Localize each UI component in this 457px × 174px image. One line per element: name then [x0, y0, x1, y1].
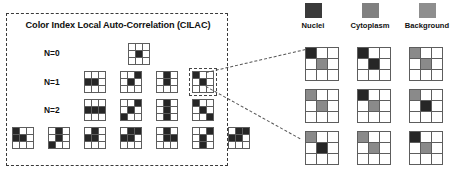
- grid-cell: [157, 79, 163, 85]
- grid-cell: [143, 58, 149, 64]
- grid-cell: [121, 86, 127, 92]
- grid-cell: [306, 143, 316, 153]
- grid-cell: [20, 135, 26, 141]
- grid-cell: [432, 132, 442, 142]
- grid-cell: [306, 48, 316, 58]
- grid-cell: [432, 154, 442, 164]
- grid-cell: [157, 72, 163, 78]
- grid-cell: [85, 72, 91, 78]
- mask-pattern-r1-c1: [120, 71, 142, 93]
- grid-cell: [121, 128, 127, 134]
- grid-cell: [236, 142, 242, 148]
- grid-cell: [128, 86, 134, 92]
- grid-cell: [410, 112, 420, 122]
- mask-pattern-r1-c0: [84, 71, 106, 93]
- grid-cell: [121, 72, 127, 78]
- grid-cell: [380, 59, 390, 69]
- grid-cell: [92, 135, 98, 141]
- grid-cell: [13, 142, 19, 148]
- grid-cell: [135, 114, 141, 120]
- grid-cell: [229, 128, 235, 134]
- grid-cell: [85, 107, 91, 113]
- grid-cell: [328, 143, 338, 153]
- grid-cell: [369, 70, 379, 80]
- grid-cell: [164, 79, 170, 85]
- grid-cell: [369, 48, 379, 58]
- grid-cell: [128, 79, 134, 85]
- grid-cell: [243, 142, 249, 148]
- grid-cell: [207, 114, 213, 120]
- grid-cell: [317, 90, 327, 100]
- grid-cell: [358, 70, 368, 80]
- mask-pattern-r2-c3: [192, 99, 214, 121]
- grid-cell: [380, 48, 390, 58]
- grid-cell: [207, 135, 213, 141]
- grid-cell: [306, 154, 316, 164]
- grid-cell: [207, 107, 213, 113]
- grid-cell: [121, 107, 127, 113]
- grid-cell: [410, 132, 420, 142]
- grid-cell: [85, 79, 91, 85]
- grid-cell: [200, 128, 206, 134]
- grid-cell: [128, 135, 134, 141]
- grid-cell: [358, 112, 368, 122]
- mask-pattern-r3-c3: [120, 127, 142, 149]
- grid-cell: [229, 135, 235, 141]
- grid-cell: [171, 142, 177, 148]
- grid-cell: [432, 101, 442, 111]
- nuclei-swatch: [305, 3, 322, 18]
- grid-cell: [164, 72, 170, 78]
- grid-cell: [328, 48, 338, 58]
- grid-cell: [171, 135, 177, 141]
- grid-cell: [328, 59, 338, 69]
- grid-cell: [49, 128, 55, 134]
- grid-cell: [369, 59, 379, 69]
- grid-cell: [200, 114, 206, 120]
- grid-cell: [410, 143, 420, 153]
- grid-cell: [85, 100, 91, 106]
- grid-cell: [135, 107, 141, 113]
- grid-cell: [92, 142, 98, 148]
- grid-cell: [27, 142, 33, 148]
- grid-cell: [129, 51, 135, 57]
- grid-cell: [121, 135, 127, 141]
- grid-cell: [27, 135, 33, 141]
- grid-cell: [317, 143, 327, 153]
- grid-cell: [143, 51, 149, 57]
- grid-cell: [121, 142, 127, 148]
- grid-cell: [171, 79, 177, 85]
- grid-cell: [99, 79, 105, 85]
- grid-cell: [164, 100, 170, 106]
- grid-cell: [193, 100, 199, 106]
- grid-cell: [121, 114, 127, 120]
- grid-cell: [380, 90, 390, 100]
- grid-cell: [421, 101, 431, 111]
- grid-cell: [328, 132, 338, 142]
- grid-cell: [85, 142, 91, 148]
- grid-cell: [128, 114, 134, 120]
- grid-cell: [358, 154, 368, 164]
- mask-pattern-r0-c0: [128, 43, 150, 65]
- variant-grid-r1-c2: [409, 89, 443, 123]
- grid-cell: [135, 79, 141, 85]
- grid-cell: [369, 90, 379, 100]
- grid-cell: [85, 86, 91, 92]
- grid-cell: [432, 143, 442, 153]
- grid-cell: [328, 154, 338, 164]
- grid-cell: [99, 86, 105, 92]
- grid-cell: [193, 142, 199, 148]
- legend-item-cytoplasm: Cytoplasm: [343, 3, 397, 30]
- grid-cell: [380, 70, 390, 80]
- grid-cell: [135, 128, 141, 134]
- grid-cell: [328, 70, 338, 80]
- grid-cell: [207, 128, 213, 134]
- grid-cell: [171, 86, 177, 92]
- grid-cell: [128, 142, 134, 148]
- grid-cell: [207, 100, 213, 106]
- page-title: Color Index Local Auto-Correlation (CILA…: [7, 20, 229, 30]
- grid-cell: [164, 107, 170, 113]
- grid-cell: [129, 58, 135, 64]
- legend-label-cytoplasm: Cytoplasm: [343, 21, 397, 30]
- grid-cell: [200, 107, 206, 113]
- grid-cell: [99, 142, 105, 148]
